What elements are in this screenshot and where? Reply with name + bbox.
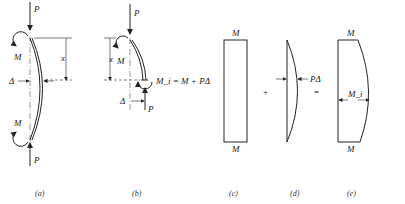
caption-c: (c) [229,189,238,198]
equals-sign: = [314,87,319,97]
force-label-bottom: P [33,155,40,165]
force-label-top: P [33,4,40,14]
second-order-moment-diagram [287,40,298,142]
panel-a: P M x Δ M P (a) [8,2,72,198]
column-inner [32,38,43,140]
beam-column-diagram: P M x Δ M P (a) P M [0,0,405,204]
caption-a: (a) [35,189,45,198]
max-moment-label: M_i [347,89,363,99]
moment-label-top: M [231,28,240,38]
column-outer [30,38,40,140]
moment-label-top: M [116,56,125,66]
panel-c: M M (c) [224,28,247,198]
caption-b: (b) [132,189,142,198]
caption-e: (e) [347,189,356,198]
uniform-moment-diagram [224,40,247,142]
panel-d: PΔ (d) [276,40,321,198]
force-label-top: P [133,8,140,18]
distance-label: x [108,54,113,64]
force-label-bottom: P [147,104,154,114]
caption-d: (d) [290,189,300,198]
panel-e: M_i M M (e) [338,28,369,198]
deflection-label: Δ [8,76,14,86]
p-delta-label: PΔ [309,74,321,84]
internal-moment-label: M_i = M + PΔ [155,76,210,86]
moment-arrow-bottom [13,132,28,146]
internal-moment-arrow [138,82,152,89]
distance-label: x [60,53,65,63]
moment-label-bottom: M [346,144,355,154]
deflection-label: Δ [119,96,125,106]
moment-arrow-top [116,36,128,48]
plus-sign: + [263,87,268,97]
moment-label-bottom: M [13,118,22,128]
panel-b: P M x M_i = M + PΔ Δ P (b) [104,4,210,198]
moment-label-bottom: M [231,144,240,154]
moment-arrow-top [13,32,28,46]
moment-label-top: M [13,52,22,62]
moment-label-top: M [346,28,355,38]
